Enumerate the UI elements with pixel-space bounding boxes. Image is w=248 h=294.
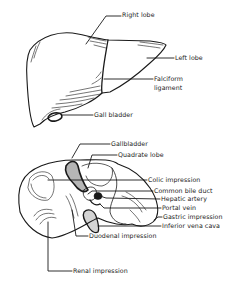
- label-left-lobe: Left lobe: [175, 55, 203, 61]
- label-colic-impression: Colic impression: [148, 177, 200, 183]
- label-duodenal-impression: Duodenal impression: [89, 233, 156, 239]
- top-leader-lines: [62, 16, 174, 115]
- label-gallbladder-top: Gall bladder: [94, 112, 133, 118]
- label-gallbladder-bottom: Gallbladder: [111, 141, 148, 147]
- label-right-lobe: Right lobe: [122, 12, 155, 18]
- label-inferior-vena-cava: Inferior vena cava: [162, 223, 220, 229]
- label-falciform-ligament-line1: Falciform: [154, 76, 183, 82]
- label-renal-impression: Renal impression: [73, 268, 128, 274]
- label-gastric-impression: Gastric impression: [163, 214, 223, 220]
- label-quadrate-lobe: Quadrate lobe: [118, 152, 164, 158]
- label-falciform-ligament-line2: ligament: [154, 85, 182, 91]
- liver-anatomy-diagram: Right lobe Left lobe Falciform ligament …: [0, 0, 248, 294]
- bottom-leader-lines: [48, 144, 162, 271]
- label-common-bile-duct: Common bile duct: [154, 188, 212, 194]
- label-portal-vein: Portal vein: [162, 205, 196, 211]
- label-hepatic-artery: Hepatic artery: [161, 196, 207, 202]
